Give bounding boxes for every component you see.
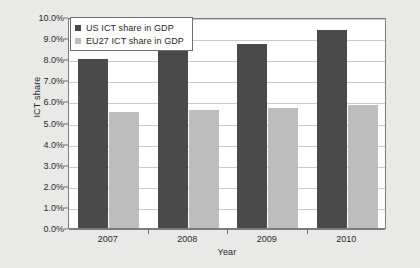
x-tick-mark xyxy=(227,229,228,234)
bar-2008-us xyxy=(158,51,188,228)
y-tick-mark xyxy=(64,186,68,187)
y-tick-label: 10.0% xyxy=(18,13,64,23)
x-tick-label: 2009 xyxy=(227,234,307,244)
x-tick-label: 2008 xyxy=(147,234,227,244)
legend-item: US ICT share in GDP xyxy=(75,21,188,34)
y-tick-label: 2.0% xyxy=(18,182,64,192)
y-tick-label: 4.0% xyxy=(18,140,64,150)
bar-2010-us xyxy=(317,30,347,228)
y-tick-mark xyxy=(64,81,68,82)
bar-chart: ICT share 0.0%1.0%2.0%3.0%4.0%5.0%6.0%7.… xyxy=(0,0,420,268)
bar-2008-eu27 xyxy=(189,110,219,228)
bar-2007-us xyxy=(78,59,108,228)
y-tick-label: 8.0% xyxy=(18,55,64,65)
x-axis-title: Year xyxy=(68,247,386,257)
bar-2009-eu27 xyxy=(268,108,298,228)
y-tick-mark xyxy=(64,102,68,103)
y-tick-label: 3.0% xyxy=(18,161,64,171)
legend-label: EU27 ICT share in GDP xyxy=(86,36,184,46)
x-tick-mark xyxy=(148,229,149,234)
legend-swatch-icon xyxy=(75,25,81,31)
x-tick-label: 2010 xyxy=(306,234,386,244)
y-tick-mark xyxy=(64,207,68,208)
y-tick-label: 6.0% xyxy=(18,97,64,107)
legend-item: EU27 ICT share in GDP xyxy=(75,34,188,47)
bar-2007-eu27 xyxy=(109,112,139,228)
y-tick-label: 0.0% xyxy=(18,224,64,234)
y-tick-mark xyxy=(64,39,68,40)
bar-2010-eu27 xyxy=(348,105,378,228)
y-tick-mark xyxy=(64,144,68,145)
y-tick-mark xyxy=(64,229,68,230)
y-tick-mark xyxy=(64,18,68,19)
y-tick-mark xyxy=(64,123,68,124)
y-tick-mark xyxy=(64,165,68,166)
y-tick-label: 5.0% xyxy=(18,119,64,129)
bar-2009-us xyxy=(237,44,267,228)
x-tick-mark xyxy=(307,229,308,234)
legend-label: US ICT share in GDP xyxy=(86,23,174,33)
x-tick-label: 2007 xyxy=(68,234,148,244)
y-tick-mark xyxy=(64,60,68,61)
y-tick-label: 7.0% xyxy=(18,76,64,86)
legend: US ICT share in GDPEU27 ICT share in GDP xyxy=(70,17,193,51)
legend-swatch-icon xyxy=(75,38,81,44)
y-tick-label: 1.0% xyxy=(18,203,64,213)
y-tick-label: 9.0% xyxy=(18,34,64,44)
